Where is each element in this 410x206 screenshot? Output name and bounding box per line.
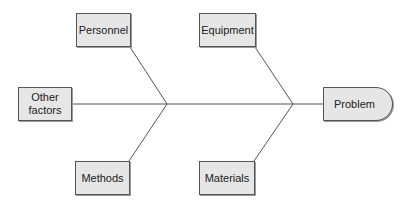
bone-materials <box>254 104 293 161</box>
cause-box-equipment: Equipment <box>199 13 256 47</box>
fishbone-diagram: Personnel Equipment Other factors Method… <box>0 0 410 206</box>
bone-equipment <box>255 47 293 104</box>
cause-label-personnel: Personnel <box>79 24 129 37</box>
cause-label-equipment: Equipment <box>201 24 254 37</box>
cause-label-methods: Methods <box>81 172 123 185</box>
bone-methods <box>129 104 167 161</box>
cause-box-methods: Methods <box>75 161 130 195</box>
bone-personnel <box>130 47 167 104</box>
cause-box-materials: Materials <box>199 161 255 195</box>
cause-label-other-factors: Other factors <box>28 91 61 117</box>
cause-box-other-factors: Other factors <box>18 87 72 121</box>
effect-box-problem: Problem <box>323 87 393 121</box>
effect-label-problem: Problem <box>334 98 375 111</box>
cause-label-materials: Materials <box>205 172 250 185</box>
cause-box-personnel: Personnel <box>76 13 131 47</box>
